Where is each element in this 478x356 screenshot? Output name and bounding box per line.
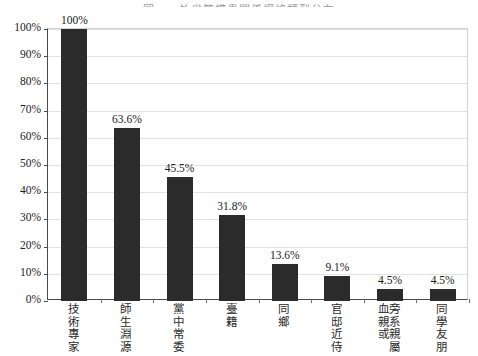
x-axis-label-char: 或 xyxy=(378,328,389,341)
x-axis-label-char: 籍 xyxy=(226,316,237,329)
bar-value-label: 100% xyxy=(45,15,103,27)
bar-value-label: 9.1% xyxy=(308,262,366,274)
x-axis-label-char: 官 xyxy=(331,303,342,316)
gridline xyxy=(48,56,467,57)
bar[interactable] xyxy=(272,264,298,301)
x-axis-label-char: 黨 xyxy=(173,303,184,316)
bar-value-label: 31.8% xyxy=(203,201,261,213)
y-tick-mark xyxy=(44,29,48,30)
chart-plot-area: 100%63.6%45.5%31.8%13.6%9.1%4.5%4.5% xyxy=(47,28,468,300)
y-tick-mark xyxy=(44,138,48,139)
gridline xyxy=(48,247,467,248)
bar[interactable] xyxy=(167,177,193,301)
x-axis-label: 技術專家 xyxy=(47,303,99,353)
x-axis-label-char: 常 xyxy=(173,328,184,341)
y-tick-label: 0% xyxy=(0,294,41,306)
x-axis-label: 同學友朋 xyxy=(416,303,468,353)
gridline xyxy=(48,192,467,193)
gridline xyxy=(48,165,467,166)
x-tick-mark xyxy=(469,299,470,303)
y-tick-mark xyxy=(44,301,48,302)
x-axis-label-char: 親 xyxy=(389,328,400,341)
y-tick-mark xyxy=(44,165,48,166)
bar[interactable] xyxy=(377,289,403,301)
x-axis-label-column: 旁系親屬 xyxy=(389,303,400,353)
bar-value-label: 4.5% xyxy=(361,275,419,287)
x-axis-label-char: 旁 xyxy=(389,303,400,316)
x-axis-label-column: 同鄉 xyxy=(278,303,289,328)
x-axis-label-char: 淵 xyxy=(120,328,131,341)
x-axis-label-char: 血 xyxy=(378,303,389,316)
x-axis-label-char: 屬 xyxy=(389,341,400,354)
x-axis-label-char: 侍 xyxy=(331,341,342,354)
x-axis-label-char: 朋 xyxy=(436,341,447,354)
x-axis-label: 臺籍 xyxy=(205,303,257,328)
y-tick-mark xyxy=(44,274,48,275)
y-tick-mark xyxy=(44,111,48,112)
x-axis-label-column: 技術專家 xyxy=(68,303,79,353)
bar[interactable] xyxy=(114,128,140,301)
bar-value-label: 13.6% xyxy=(256,250,314,262)
y-tick-mark xyxy=(44,192,48,193)
x-axis-label: 黨中常委 xyxy=(153,303,205,353)
x-axis-label-char: 同 xyxy=(278,303,289,316)
x-axis-label: 同鄉 xyxy=(258,303,310,328)
x-axis-label: 旁系親屬血親或 xyxy=(363,303,415,353)
gridline xyxy=(48,29,467,30)
y-tick-label: 70% xyxy=(0,104,41,116)
x-axis-label-char: 臺 xyxy=(226,303,237,316)
x-axis-label-char: 專 xyxy=(68,328,79,341)
gridline xyxy=(48,138,467,139)
x-axis-label-column: 官邸近侍 xyxy=(331,303,342,353)
x-axis-label-char: 技 xyxy=(68,303,79,316)
bar-value-label: 45.5% xyxy=(151,163,209,175)
bar-value-label: 63.6% xyxy=(98,114,156,126)
y-tick-mark xyxy=(44,56,48,57)
y-tick-label: 90% xyxy=(0,49,41,61)
gridline xyxy=(48,111,467,112)
y-tick-label: 20% xyxy=(0,240,41,252)
y-tick-label: 80% xyxy=(0,76,41,88)
y-tick-label: 60% xyxy=(0,131,41,143)
x-axis-label-char: 近 xyxy=(331,328,342,341)
x-axis-label: 師生淵源 xyxy=(100,303,152,353)
y-tick-mark xyxy=(44,247,48,248)
x-axis-label-char: 友 xyxy=(436,328,447,341)
x-axis: 技術專家師生淵源黨中常委臺籍同鄉官邸近侍旁系親屬血親或同學友朋 xyxy=(47,303,468,356)
y-tick-mark xyxy=(44,83,48,84)
y-tick-label: 10% xyxy=(0,267,41,279)
x-axis-label-char: 委 xyxy=(173,341,184,354)
x-axis-label-column: 同學友朋 xyxy=(436,303,447,353)
chart-title-text: 圖一 外省籍權貴關係網絡類型分布 xyxy=(143,1,335,7)
gridline xyxy=(48,83,467,84)
x-axis-label-column: 師生淵源 xyxy=(120,303,131,353)
bar[interactable] xyxy=(219,215,245,301)
chart-title: 圖一 外省籍權貴關係網絡類型分布 xyxy=(0,0,478,7)
bar[interactable] xyxy=(61,29,87,301)
x-axis-label-char: 鄉 xyxy=(278,316,289,329)
y-tick-label: 30% xyxy=(0,212,41,224)
x-axis-label-column: 黨中常委 xyxy=(173,303,184,353)
gridline xyxy=(48,219,467,220)
y-tick-label: 100% xyxy=(0,22,41,34)
x-axis-label: 官邸近侍 xyxy=(310,303,362,353)
bar-value-label: 4.5% xyxy=(414,275,472,287)
y-tick-label: 50% xyxy=(0,158,41,170)
x-axis-label-char: 家 xyxy=(68,341,79,354)
y-tick-mark xyxy=(44,219,48,220)
bar[interactable] xyxy=(324,276,350,301)
bar[interactable] xyxy=(430,289,456,301)
x-axis-label-char: 源 xyxy=(120,341,131,354)
x-axis-label-char: 師 xyxy=(120,303,131,316)
x-axis-label-char: 同 xyxy=(436,303,447,316)
x-axis-label-column-secondary: 血親或 xyxy=(378,303,389,353)
y-tick-label: 40% xyxy=(0,185,41,197)
x-axis-label-column: 臺籍 xyxy=(226,303,237,328)
